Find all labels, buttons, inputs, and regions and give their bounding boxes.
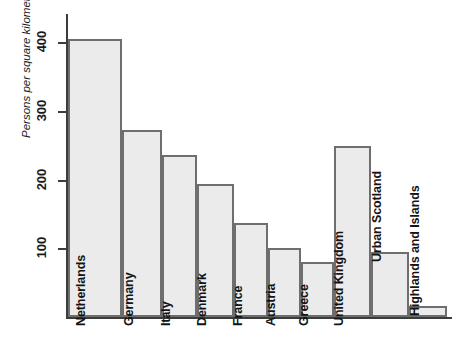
bar-label-denmark: Denmark <box>195 273 209 326</box>
y-tick-400 <box>58 42 66 44</box>
bar-label-urban-scotland: Urban Scotland <box>370 171 384 262</box>
y-tick-300 <box>58 111 66 113</box>
y-tick-label-400: 400 <box>34 25 49 59</box>
bar-label-italy: Italy <box>159 301 173 326</box>
y-tick-label-300: 300 <box>34 94 49 128</box>
bar-label-austria: Austria <box>264 284 278 326</box>
bar-chart: Persons per square kilometre 400 300 200… <box>0 0 457 339</box>
bar-italy <box>162 155 197 317</box>
bar-label-highlands-and-islands: Highlands and Islands <box>408 185 422 316</box>
bar-label-greece: Greece <box>297 284 311 326</box>
bar-label-france: France <box>231 286 245 326</box>
y-tick-100 <box>58 248 66 250</box>
bar-label-united-kingdom: United Kingdom <box>332 231 346 326</box>
y-tick-label-200: 200 <box>34 163 49 197</box>
y-tick-label-100: 100 <box>34 231 49 265</box>
bar-label-netherlands: Netherlands <box>74 255 88 326</box>
y-tick-200 <box>58 180 66 182</box>
bar-label-germany: Germany <box>122 273 136 327</box>
